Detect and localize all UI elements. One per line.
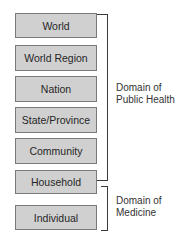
- level-household: Household: [15, 170, 97, 194]
- public-health-label-line1: Domain of: [116, 82, 175, 94]
- public-health-domain-label: Domain of Public Health: [116, 82, 175, 106]
- level-world: World: [15, 13, 97, 38]
- public-health-label-line2: Public Health: [116, 94, 175, 106]
- level-state-province: State/Province: [15, 107, 97, 133]
- medicine-label-line2: Medicine: [116, 207, 162, 219]
- medicine-label-line1: Domain of: [116, 195, 162, 207]
- level-world-region: World Region: [15, 45, 97, 71]
- medicine-domain-label: Domain of Medicine: [116, 195, 162, 219]
- medicine-bracket: [101, 186, 108, 231]
- level-community: Community: [15, 138, 97, 164]
- level-individual: Individual: [15, 205, 97, 230]
- level-nation: Nation: [15, 76, 97, 102]
- public-health-bracket: [97, 14, 108, 181]
